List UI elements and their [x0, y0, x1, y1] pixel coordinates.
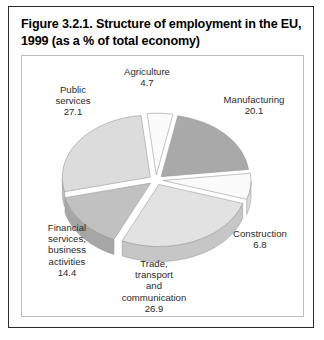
slice-label-public-services: Public services 27.1 [34, 84, 112, 118]
figure-frame: Figure 3.2.1. Structure of employment in… [8, 6, 314, 328]
slice-label-manufacturing: Manufacturing 20.1 [208, 94, 300, 116]
figure-title: Figure 3.2.1. Structure of employment in… [21, 16, 307, 49]
slice-label-trade: Trade, transport and communication 26.9 [106, 258, 202, 314]
slice-label-agriculture: Agriculture 4.7 [108, 66, 186, 88]
slice-label-financial-services: Financial services, business activities … [28, 222, 106, 278]
pie-chart-plot-panel: Agriculture 4.7 Manufacturing 20.1 Publi… [21, 55, 304, 317]
slice-label-construction: Construction 6.8 [218, 228, 302, 250]
